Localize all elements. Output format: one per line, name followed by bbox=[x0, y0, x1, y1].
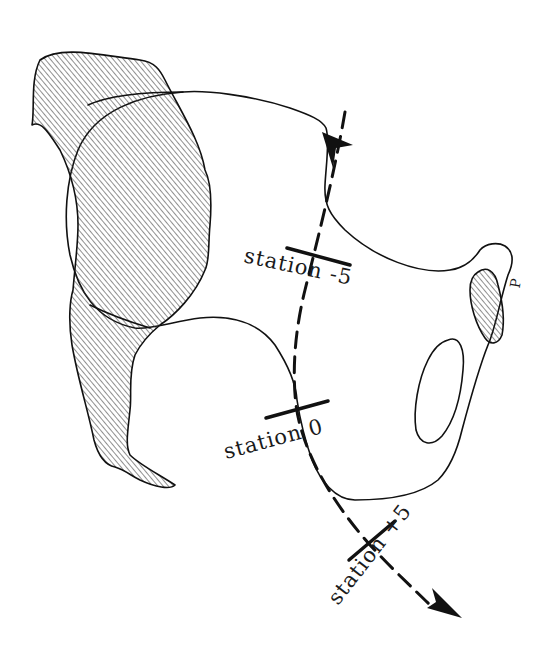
station-plus5-label: station +5 bbox=[323, 499, 416, 609]
arrow-head-bottom bbox=[427, 588, 462, 618]
sacrum-coccyx bbox=[32, 52, 211, 487]
pelvis-diagram: P station -5 station 0 station +5 bbox=[0, 0, 560, 658]
symphysis-label: P bbox=[507, 277, 524, 289]
